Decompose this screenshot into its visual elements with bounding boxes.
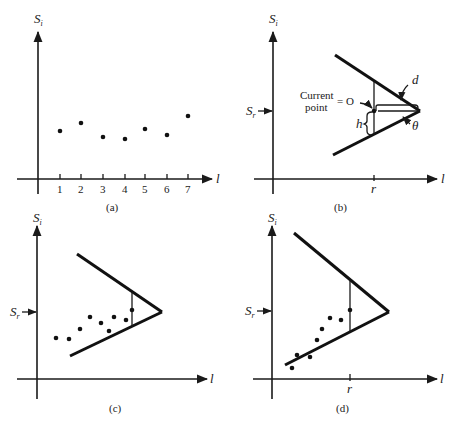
data-points [54,308,135,342]
h-label: h [356,116,363,131]
figure-canvas: Si l 1 2 3 4 5 6 7 (a [0,0,456,426]
x-axis-label: l [210,371,214,386]
lower-boundary-line [333,111,420,155]
current-point-label-line2: point [305,101,328,113]
lower-boundary-line [285,312,389,365]
upper-boundary-line [77,254,162,312]
svg-text:6: 6 [164,183,170,195]
panel-caption: (b) [334,201,347,214]
x-axis-label: l [440,371,444,386]
panel-b: Si l Sr r h d θ Current point = O (b) [246,11,445,214]
d-label: d [412,72,419,87]
y-axis-label: Si [268,210,277,227]
r-label: r [371,181,377,196]
svg-text:5: 5 [142,183,148,195]
panel-caption: (d) [336,402,349,415]
sr-label: Sr [246,103,257,120]
lower-boundary-line [70,312,162,356]
data-points [58,114,191,142]
y-axis-label: Si [34,11,43,28]
current-point-equals-o: = O [337,95,354,107]
svg-text:3: 3 [100,183,106,195]
h-brace [364,112,372,135]
y-axis-label: Si [33,210,42,227]
sr-label: Sr [245,303,256,320]
panel-caption: (c) [109,402,122,415]
svg-text:2: 2 [78,183,84,195]
data-points [290,308,353,371]
svg-text:7: 7 [185,183,191,195]
current-point-label-line1: Current [300,89,334,101]
x-tick-labels: 1 2 3 4 5 6 7 [57,183,191,195]
panel-d: Si l Sr r (d) [245,210,444,415]
current-point-pointer [360,103,372,108]
sr-label: Sr [10,304,21,321]
x-axis-label: l [216,171,220,186]
x-axis-label: l [441,171,445,186]
theta-label: θ [412,118,419,133]
panel-a: Si l 1 2 3 4 5 6 7 (a [17,11,220,214]
svg-text:1: 1 [57,183,63,195]
svg-text:4: 4 [122,183,128,195]
y-axis-label: Si [269,11,278,28]
upper-boundary-line [294,233,389,312]
panel-c: Si l Sr (c) [10,210,214,415]
r-label: r [347,381,353,396]
panel-caption: (a) [106,201,119,214]
